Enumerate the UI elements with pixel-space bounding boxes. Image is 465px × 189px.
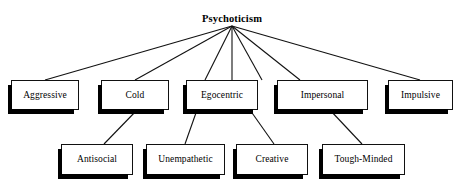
node-antisocial: Antisocial	[61, 144, 133, 175]
node-label-creative: Creative	[256, 154, 289, 165]
node-egocentric: Egocentric	[186, 80, 258, 110]
node-label-aggressive: Aggressive	[23, 90, 67, 101]
edge-root-to-impulsive	[232, 26, 420, 80]
edge-root-to-cold	[135, 26, 232, 80]
node-creative: Creative	[236, 144, 308, 175]
edge-cold-to-antisocial	[104, 110, 137, 144]
edge-root-to-aggressive	[45, 26, 232, 80]
node-label-unempathetic: Unempathetic	[158, 154, 212, 165]
node-tough-minded: Tough-Minded	[322, 144, 405, 175]
root-node-title: Psychoticism	[172, 12, 292, 25]
node-label-impersonal: Impersonal	[301, 90, 345, 101]
node-impersonal: Impersonal	[277, 80, 368, 110]
node-label-impulsive: Impulsive	[401, 90, 440, 101]
edge-root-to-impersonal	[232, 26, 262, 80]
node-aggressive: Aggressive	[11, 80, 79, 110]
node-label-egocentric: Egocentric	[201, 90, 243, 101]
node-impulsive: Impulsive	[388, 80, 453, 110]
edge-root-to-egocentric	[205, 26, 232, 80]
node-unempathetic: Unempathetic	[146, 144, 225, 175]
edge-egocentric-to-unempathetic	[185, 110, 197, 144]
edge-egocentric-to-creative	[250, 110, 274, 144]
edge-root-to-impersonal2	[232, 26, 300, 80]
edge-impersonal-to-tough_minded	[330, 110, 362, 144]
node-label-antisocial: Antisocial	[77, 154, 117, 165]
node-label-tough-minded: Tough-Minded	[334, 154, 392, 165]
node-label-cold: Cold	[126, 90, 145, 101]
node-cold: Cold	[101, 80, 169, 110]
psychoticism-hierarchy-diagram: Psychoticism Aggressive Cold Egocentric …	[0, 0, 465, 189]
